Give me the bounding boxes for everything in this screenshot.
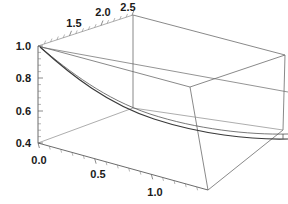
x-tick-label-2: 0.5 — [90, 168, 105, 180]
box-edge-top-back-right — [133, 15, 285, 55]
bounding-box — [38, 15, 285, 190]
box-edge-top-front-right — [190, 55, 285, 87]
z-tick-label-4: 0.4 — [16, 137, 32, 149]
plot-canvas: 1.0 0.8 0.6 0.4 0.0 0.5 1.0 1.5 2.0 2.5 — [0, 0, 288, 204]
y-tick-label-2: 2.0 — [95, 6, 110, 18]
box-edge-y-axis-top — [38, 15, 133, 46]
z-tick-label-1: 1.0 — [16, 40, 31, 52]
y-tick-label-3: 2.5 — [120, 1, 135, 13]
x-tick-label-3: 1.0 — [147, 186, 162, 198]
x-axis-labels: 0.0 0.5 1.0 — [31, 154, 162, 198]
box-edge-vertical-front — [190, 87, 208, 190]
y-tick-label-1: 1.5 — [66, 17, 81, 29]
z-axis-labels: 1.0 0.8 0.6 0.4 — [16, 40, 32, 149]
box-edge-x-axis-bottom — [38, 143, 208, 190]
surface-plot-svg: 1.0 0.8 0.6 0.4 0.0 0.5 1.0 1.5 2.0 2.5 — [0, 0, 288, 204]
surface-edge-back — [40, 47, 288, 134]
z-tick-label-3: 0.6 — [16, 105, 31, 117]
y-axis-ticks — [44, 10, 134, 44]
surface-ruling-line — [40, 47, 288, 92]
z-axis-ticks — [38, 46, 43, 143]
box-edge-vertical-right — [283, 55, 285, 130]
x-axis-ticks — [38, 143, 198, 190]
box-edge-bottom-back-left — [38, 108, 133, 143]
x-tick-label-1: 0.0 — [31, 154, 46, 166]
z-tick-label-2: 0.8 — [16, 72, 31, 84]
box-edge-top-front-left — [38, 46, 190, 87]
